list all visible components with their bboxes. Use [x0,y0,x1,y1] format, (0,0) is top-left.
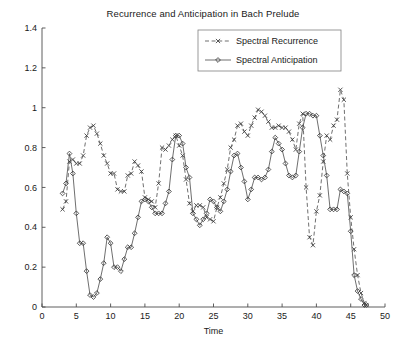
series-anticipation [60,111,369,307]
series-line [63,114,367,305]
x-tick-label: 5 [74,311,79,321]
y-tick-label: 0.8 [24,143,37,153]
x-tick-label: 15 [140,311,150,321]
legend-label: Spectral Anticipation [236,55,318,65]
y-tick-label: 1 [32,103,37,113]
legend[interactable]: Spectral RecurrenceSpectral Anticipation [198,30,341,71]
chart-plot-area: 0510152025303540455000.20.40.60.811.21.4… [0,0,406,348]
x-tick-label: 0 [39,311,44,321]
y-tick-label: 0.4 [24,222,37,232]
y-tick-label: 0.2 [24,262,37,272]
x-tick-label: 25 [208,311,218,321]
series-line [63,90,367,305]
x-tick-label: 35 [277,311,287,321]
figure-container: Recurrence and Anticipation in Bach Prel… [0,0,406,348]
y-tick-label: 1.2 [24,63,37,73]
y-tick-label: 0 [32,302,37,312]
x-tick-label: 50 [380,311,390,321]
y-tick-label: 0.6 [24,183,37,193]
x-tick-label: 40 [311,311,321,321]
x-tick-label: 10 [106,311,116,321]
x-tick-label: 30 [243,311,253,321]
x-axis-title: Time [204,326,224,336]
legend-label: Spectral Recurrence [236,36,318,46]
x-tick-label: 20 [174,311,184,321]
x-tick-label: 45 [346,311,356,321]
data-series [60,88,369,308]
y-tick-label: 1.4 [24,23,37,33]
series-recurrence [60,88,368,307]
